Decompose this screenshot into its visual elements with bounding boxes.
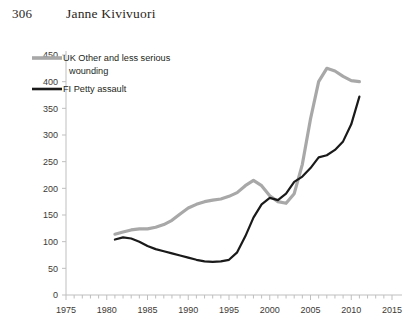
figure-page: 306 Janne Kivivuori 05010015020025030035… — [0, 0, 410, 326]
y-axis-tick-label: 300 — [43, 130, 58, 140]
x-axis-tick-label: 1975 — [56, 305, 76, 315]
y-axis-tick-label: 100 — [43, 237, 58, 247]
x-axis-tick-label: 1980 — [97, 305, 117, 315]
x-axis-tick-label: 2005 — [300, 305, 320, 315]
x-axis-tick-label: 2010 — [341, 305, 361, 315]
x-axis-tick-label: 1985 — [137, 305, 157, 315]
x-axis-tick-label: 1995 — [219, 305, 239, 315]
author-name: Janne Kivivuori — [66, 6, 156, 22]
y-axis-tick-label: 250 — [43, 157, 58, 167]
series-lines — [115, 68, 360, 262]
x-axis-tick-label: 1990 — [178, 305, 198, 315]
y-axis-tick-label: 350 — [43, 104, 58, 114]
x-axis-tick-label: 2015 — [382, 305, 402, 315]
legend-label: FI Petty assault — [63, 84, 127, 94]
legend-label: UK Other and less serious — [63, 53, 171, 63]
y-axis-tick-label: 150 — [43, 210, 58, 220]
x-axis-ticks — [66, 295, 392, 300]
line-chart-figure: 050100150200250300350400450 197519801985… — [0, 34, 410, 326]
series-line — [115, 68, 360, 234]
y-axis-tick-label: 50 — [48, 264, 58, 274]
chart-legend: UK Other and less seriouswoundingFI Pett… — [32, 53, 171, 94]
legend-label-continued: wounding — [68, 66, 108, 76]
y-axis-tick-label: 400 — [43, 77, 58, 87]
chart-canvas: 050100150200250300350400450 197519801985… — [0, 34, 410, 326]
y-axis-tick-label: 0 — [53, 290, 58, 300]
series-line — [115, 97, 360, 262]
page-number: 306 — [12, 6, 32, 22]
running-head: 306 Janne Kivivuori — [0, 6, 410, 28]
x-axis-tick-labels: 197519801985199019952000200520102015 — [56, 305, 402, 315]
y-axis-tick-label: 200 — [43, 184, 58, 194]
x-axis-tick-label: 2000 — [260, 305, 280, 315]
